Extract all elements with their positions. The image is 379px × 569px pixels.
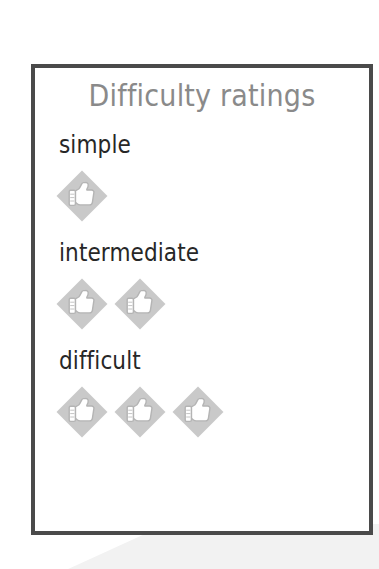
rating-label: intermediate (35, 238, 369, 268)
difficulty-ratings-card: Difficulty ratings simple (31, 64, 373, 535)
rating-row-simple: simple (35, 130, 369, 222)
thumbs-up-glyph (126, 397, 154, 427)
rating-badges (35, 170, 369, 222)
rating-row-difficult: difficult (35, 346, 369, 438)
rating-list: simple intermediate (35, 130, 369, 454)
thumbs-up-glyph (68, 397, 96, 427)
thumbs-up-diamond-icon (114, 278, 166, 330)
thumbs-up-glyph (68, 289, 96, 319)
thumbs-up-diamond-icon (172, 386, 224, 438)
rating-label: difficult (35, 346, 369, 376)
thumbs-up-diamond-icon (56, 170, 108, 222)
thumbs-up-diamond-icon (114, 386, 166, 438)
rating-badges (35, 386, 369, 438)
thumbs-up-glyph (68, 181, 96, 211)
thumbs-up-diamond-icon (56, 386, 108, 438)
thumbs-up-glyph (126, 289, 154, 319)
rating-label: simple (35, 130, 369, 160)
page-title: Difficulty ratings (35, 78, 369, 113)
rating-badges (35, 278, 369, 330)
rating-row-intermediate: intermediate (35, 238, 369, 330)
thumbs-up-diamond-icon (56, 278, 108, 330)
thumbs-up-glyph (184, 397, 212, 427)
